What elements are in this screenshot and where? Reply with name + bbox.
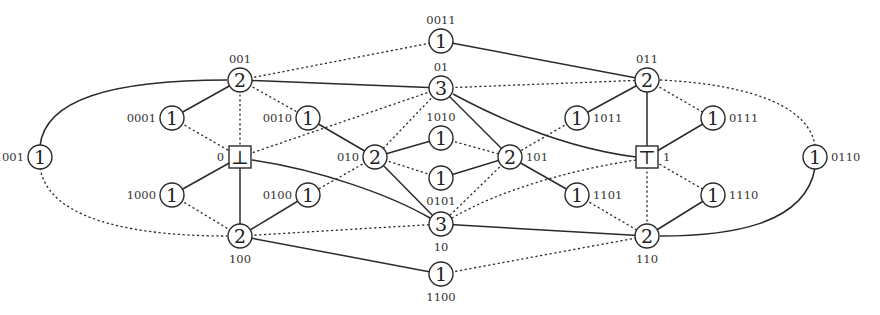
edge-001-01 <box>240 80 441 88</box>
node-0: ⊥0 <box>217 146 251 169</box>
node-value: ⊥ <box>231 146 249 168</box>
node-value: 2 <box>234 69 246 91</box>
node-0110: 10110 <box>803 145 860 169</box>
edge-10-110 <box>441 224 647 236</box>
node-1000: 11000 <box>127 183 184 207</box>
node-value: 1 <box>166 184 178 206</box>
nodes-layer: 1001120013012011100011001011010110111011… <box>0 13 860 304</box>
node-value: 1 <box>435 167 447 189</box>
node-0111: 10111 <box>701 106 758 130</box>
node-1001: 11001 <box>0 145 52 169</box>
node-value: 2 <box>234 225 246 247</box>
node-label: 010 <box>337 150 359 164</box>
node-value: 1 <box>435 30 447 52</box>
node-value: 1 <box>571 184 583 206</box>
node-value: 1 <box>809 146 821 168</box>
edge-0011-011 <box>441 41 647 80</box>
node-value: 1 <box>166 107 178 129</box>
node-value: 1 <box>707 184 719 206</box>
node-1101: 11101 <box>565 183 622 207</box>
node-label: 1100 <box>426 290 455 304</box>
node-value: 1 <box>302 184 314 206</box>
node-label: 100 <box>229 252 251 266</box>
node-label: 1000 <box>127 188 156 202</box>
node-label: 1010 <box>426 110 455 124</box>
node-value: 1 <box>34 146 46 168</box>
node-label: 0 <box>217 150 224 164</box>
node-value: ⊤ <box>638 146 656 168</box>
node-label: 0111 <box>729 111 758 125</box>
node-011: 2011 <box>635 52 659 92</box>
node-label: 1101 <box>593 188 622 202</box>
node-value: 2 <box>369 146 381 168</box>
edges-layer <box>40 41 815 274</box>
edge-01-1 <box>453 94 636 157</box>
edge-0110-110 <box>660 168 815 236</box>
node-value: 1 <box>435 127 447 149</box>
node-1110: 11110 <box>701 183 758 207</box>
node-label: 011 <box>636 52 658 66</box>
node-label: 1 <box>663 150 670 164</box>
node-label: 1011 <box>593 111 622 125</box>
node-value: 3 <box>435 213 447 235</box>
node-0011: 10011 <box>426 13 455 53</box>
node-label: 0110 <box>831 150 860 164</box>
lattice-diagram: 1001120013012011100011001011010110111011… <box>0 0 880 315</box>
node-label: 110 <box>636 252 658 266</box>
node-label: 0100 <box>263 188 292 202</box>
edge-100-1100 <box>240 236 441 274</box>
node-01: 301 <box>429 60 453 100</box>
edge-001-0011 <box>240 41 441 80</box>
node-label: 0010 <box>263 111 292 125</box>
node-value: 1 <box>302 107 314 129</box>
node-1010: 11010 <box>426 110 455 150</box>
node-001: 2001 <box>228 52 252 92</box>
node-100: 2100 <box>228 224 252 266</box>
node-label: 001 <box>229 52 251 66</box>
edge-01-011 <box>441 80 647 88</box>
node-label: 01 <box>434 60 449 74</box>
edge-1001-100 <box>40 168 227 236</box>
node-label: 0011 <box>426 13 455 27</box>
node-110: 2110 <box>635 224 659 266</box>
node-1100: 11100 <box>426 262 455 304</box>
node-label: 101 <box>526 150 548 164</box>
node-value: 1 <box>435 263 447 285</box>
node-label: 0101 <box>426 194 455 208</box>
node-label: 1001 <box>0 150 24 164</box>
node-value: 2 <box>504 146 516 168</box>
edge-100-10 <box>240 224 441 236</box>
node-value: 1 <box>707 107 719 129</box>
node-value: 3 <box>435 77 447 99</box>
node-1: ⊤1 <box>636 146 670 169</box>
node-label: 10 <box>434 240 449 254</box>
node-0100: 10100 <box>263 183 320 207</box>
edge-1100-110 <box>441 236 647 274</box>
node-10: 310 <box>429 212 453 254</box>
node-0010: 10010 <box>263 106 320 130</box>
node-0001: 10001 <box>127 106 184 130</box>
node-value: 2 <box>641 225 653 247</box>
node-101: 2101 <box>498 145 548 169</box>
node-label: 1110 <box>729 188 758 202</box>
node-0101: 10101 <box>426 166 455 208</box>
node-value: 1 <box>571 107 583 129</box>
node-label: 0001 <box>127 111 156 125</box>
node-value: 2 <box>641 69 653 91</box>
